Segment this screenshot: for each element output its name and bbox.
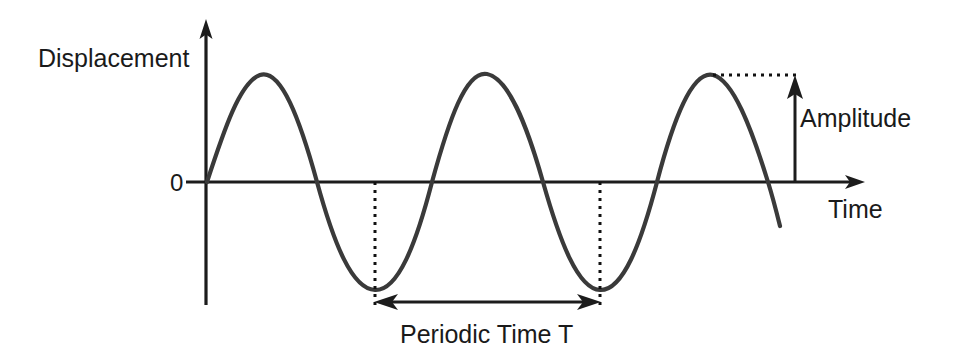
amplitude-annotation: Amplitude <box>713 75 911 182</box>
x-axis-label: Time <box>828 195 883 223</box>
y-axis-label: Displacement <box>38 44 190 72</box>
origin-label: 0 <box>170 169 183 196</box>
diagram-canvas: Amplitude Periodic Time T Displacement T… <box>0 0 955 360</box>
period-annotation: Periodic Time T <box>374 182 601 348</box>
axis-labels-group: Displacement Time 0 <box>38 44 883 223</box>
wave-diagram: Amplitude Periodic Time T Displacement T… <box>0 0 955 360</box>
amplitude-label: Amplitude <box>800 104 911 132</box>
period-label: Periodic Time T <box>400 320 573 348</box>
